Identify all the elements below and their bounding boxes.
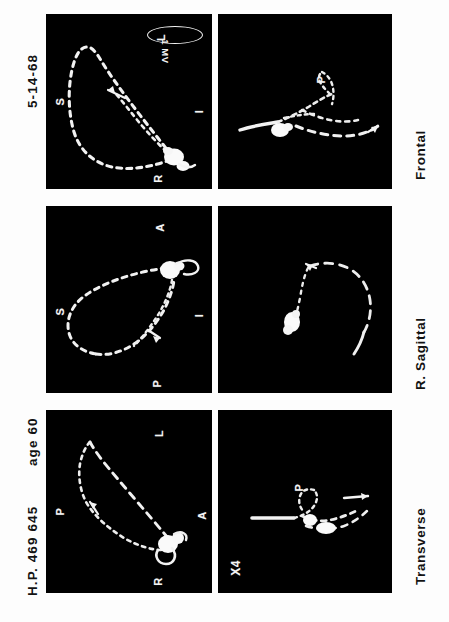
axis-label-transverse-A: A — [197, 511, 208, 519]
panel-frontal-main-inner: 1 MV L S I R — [46, 14, 212, 189]
axis-label-sagittal-I: I — [194, 314, 205, 318]
sagittal-main-loop-trace — [46, 206, 212, 393]
patient-id-caption: H.P. 469 645 — [26, 506, 40, 596]
panel-frontal-main: 1 MV L S I R — [46, 14, 212, 189]
vectorcardiogram-figure: H.P. 469 645 age 60 5-14-68 Transverse R… — [0, 0, 449, 622]
axis-label-sagittal-P: P — [152, 380, 163, 388]
view-caption-transverse: Transverse — [414, 508, 428, 585]
panel-transverse-magnified: P X4 — [218, 410, 392, 593]
axis-label-frontal-S: S — [55, 98, 66, 106]
axis-label-transverse-R: R — [153, 577, 164, 585]
study-date-caption: 5-14-68 — [26, 54, 40, 108]
frontal-magnified-loop-trace — [218, 14, 392, 189]
gain-label-x4: X4 — [230, 560, 242, 576]
sagittal-magnified-loop-trace — [218, 206, 392, 393]
transverse-magnified-loop-trace — [218, 410, 392, 593]
view-caption-sagittal: R. Sagittal — [414, 317, 428, 390]
axis-label-transverse-L: L — [154, 430, 165, 437]
panel-sagittal-main: A S I P — [46, 206, 212, 393]
calibration-label: 1 MV — [160, 39, 171, 64]
panel-frontal-magnified-inner: P — [218, 14, 392, 189]
axis-label-sagittal-S: S — [55, 308, 66, 316]
axis-label-sagittal-A: A — [155, 223, 166, 231]
panel-transverse-main: L P A R — [46, 410, 212, 593]
patient-age-caption: age 60 — [26, 417, 40, 466]
axis-label-frontal-R: R — [153, 174, 164, 182]
transverse-main-loop-trace — [46, 410, 212, 593]
panel-transverse-main-inner: L P A R — [46, 410, 212, 593]
panel-frontal-magnified: P — [218, 14, 392, 189]
panel-sagittal-main-inner: A S I P — [46, 206, 212, 393]
panel-transverse-magnified-inner: P X4 — [218, 410, 392, 593]
panel-sagittal-magnified-inner — [218, 206, 392, 393]
axis-label-frontal-I: I — [194, 110, 205, 114]
view-caption-frontal: Frontal — [414, 130, 428, 180]
annotation-transverse-magnified-P: P — [294, 484, 305, 492]
annotation-frontal-magnified-P: P — [316, 76, 327, 84]
axis-label-frontal-L: L — [156, 34, 167, 41]
axis-label-transverse-P: P — [55, 508, 66, 516]
panel-sagittal-magnified — [218, 206, 392, 393]
